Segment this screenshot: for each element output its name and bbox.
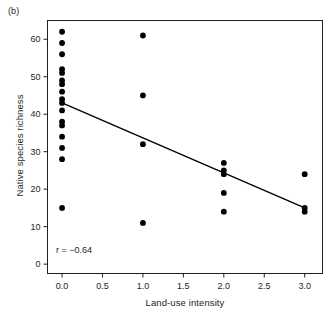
- data-point: [140, 33, 146, 39]
- regression-line: [62, 103, 305, 208]
- y-tick-label: 40: [30, 109, 40, 119]
- y-tick-label: 60: [30, 34, 40, 44]
- x-tick-label: 3.0: [298, 281, 311, 291]
- y-axis-ticks: 0102030405060: [30, 34, 47, 269]
- y-tick-label: 20: [30, 184, 40, 194]
- x-tick-label: 2.5: [258, 281, 271, 291]
- data-point: [221, 190, 227, 196]
- data-point: [140, 93, 146, 99]
- plot-frame: [48, 21, 323, 274]
- data-point: [302, 171, 308, 177]
- x-tick-label: 2.0: [218, 281, 231, 291]
- y-tick-label: 30: [30, 147, 40, 157]
- data-point: [302, 209, 308, 215]
- x-axis-ticks: 0.00.51.01.52.02.53.0: [56, 274, 311, 291]
- data-point: [221, 171, 227, 177]
- data-point: [59, 123, 65, 129]
- data-point: [59, 108, 65, 114]
- data-point: [59, 156, 65, 162]
- y-tick-label: 10: [30, 222, 40, 232]
- x-tick-label: 0.0: [56, 281, 69, 291]
- data-point: [59, 29, 65, 35]
- figure-panel-b: (b) Native species richness Land-use int…: [0, 0, 334, 317]
- data-point: [59, 70, 65, 76]
- y-tick-label: 0: [35, 259, 40, 269]
- data-point: [221, 160, 227, 166]
- data-point: [59, 100, 65, 106]
- data-point: [140, 220, 146, 226]
- data-point: [59, 51, 65, 57]
- y-tick-label: 50: [30, 72, 40, 82]
- x-tick-label: 1.5: [177, 281, 190, 291]
- correlation-annotation: r = −0.64: [56, 245, 92, 255]
- data-points: [59, 29, 307, 226]
- data-point: [140, 141, 146, 147]
- data-point: [59, 205, 65, 211]
- data-point: [59, 89, 65, 95]
- x-tick-label: 0.5: [96, 281, 109, 291]
- data-point: [221, 209, 227, 215]
- data-point: [59, 134, 65, 140]
- data-point: [59, 81, 65, 87]
- scatter-plot-canvas: 0102030405060 0.00.51.01.52.02.53.0 r = …: [0, 0, 334, 317]
- data-point: [59, 40, 65, 46]
- x-tick-label: 1.0: [137, 281, 150, 291]
- data-point: [59, 145, 65, 151]
